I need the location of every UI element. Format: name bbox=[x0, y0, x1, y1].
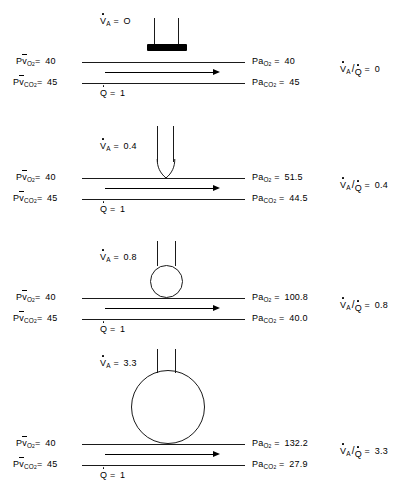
mixed-venous-pco2-value-4: 45 bbox=[47, 459, 57, 469]
v-subscript-a: A bbox=[106, 20, 110, 27]
q-dot-symbol: Q bbox=[100, 88, 107, 99]
airway-left-wall bbox=[157, 349, 158, 373]
mixed-venous-po2-value-1: 40 bbox=[45, 56, 55, 66]
equals-sign: = bbox=[110, 88, 115, 98]
panel-2: VA = 0.4 PvO2= 40 PvCO2= 45 Q = 1 PaO2 =… bbox=[0, 115, 413, 225]
v-subscript-a: A bbox=[346, 450, 350, 457]
capillary-bottom-wall bbox=[82, 83, 245, 84]
airway-left-wall bbox=[157, 241, 158, 266]
arterial-pco2-value-3: 40.0 bbox=[289, 313, 307, 323]
panel-1: VA = O PvO2= 40 PvCO2= 45 Q = 1 PaO2 = 4… bbox=[0, 0, 413, 110]
arterial-po2-value-1: 40 bbox=[284, 56, 294, 66]
alveolar-ventilation-value-3: 0.8 bbox=[124, 252, 137, 262]
capillary-top-wall bbox=[82, 298, 245, 299]
airway-obstruction-plug bbox=[147, 44, 187, 51]
equals-sign: = bbox=[113, 252, 118, 262]
arterial-pco2-value-1: 45 bbox=[289, 77, 299, 87]
equals-sign: = bbox=[365, 180, 370, 190]
co2-subscript: CO2 bbox=[263, 81, 276, 88]
equals-sign: = bbox=[113, 358, 118, 368]
airway-right-wall bbox=[175, 241, 176, 266]
mixed-venous-pco2-value-3: 45 bbox=[47, 313, 57, 323]
mixed-venous-po2-value-4: 40 bbox=[45, 438, 55, 448]
va-q-ratio-label-3: VA/Q = 0.8 bbox=[340, 299, 388, 311]
arterial-po2-label-2: PaO2 = 51.5 bbox=[252, 172, 303, 184]
equals-sign: = bbox=[113, 16, 118, 26]
airway-right-wall bbox=[178, 18, 179, 44]
v-subscript-a: A bbox=[346, 184, 350, 191]
arterial-pco2-label-2: PaCO2 = 44.5 bbox=[252, 193, 308, 205]
mixed-venous-pco2-label-4: PvCO2= 45 bbox=[13, 459, 57, 471]
arterial-po2-label-3: PaO2 = 100.8 bbox=[252, 292, 308, 304]
blood-flow-arrow-shaft bbox=[105, 188, 215, 189]
co2-subscript: CO2 bbox=[263, 463, 276, 470]
blood-flow-arrow-head bbox=[213, 185, 220, 191]
blood-flow-value-2: 1 bbox=[120, 204, 125, 214]
blood-flow-arrow-head bbox=[213, 451, 220, 457]
va-q-ratio-symbol: VA/Q bbox=[340, 179, 362, 191]
capillary-bottom-wall bbox=[82, 319, 245, 320]
alveolar-ventilation-value-1: O bbox=[124, 16, 131, 26]
co2-subscript: CO2 bbox=[24, 197, 37, 204]
alveolar-ventilation-label-2: VA = 0.4 bbox=[100, 141, 137, 152]
blood-flow-arrow-shaft bbox=[105, 454, 215, 455]
pa-symbol: Pa bbox=[252, 459, 263, 469]
alveolar-ventilation-label-3: VA = 0.8 bbox=[100, 252, 137, 263]
blood-flow-value-4: 1 bbox=[120, 470, 125, 480]
pa-symbol: Pa bbox=[252, 292, 263, 302]
q-dot-symbol: Q bbox=[355, 67, 362, 78]
mixed-venous-pco2-value-1: 45 bbox=[47, 77, 57, 87]
blood-flow-label-3: Q = 1 bbox=[100, 324, 125, 335]
equals-sign: = bbox=[279, 459, 284, 469]
panel-4: VA = 3.3 PvO2= 40 PvCO2= 45 Q = 1 PaO2 =… bbox=[0, 345, 413, 478]
equals-sign: = bbox=[37, 77, 42, 87]
blood-flow-arrow-head bbox=[213, 305, 220, 311]
capillary-bottom-wall bbox=[82, 465, 245, 466]
arterial-po2-value-2: 51.5 bbox=[284, 172, 302, 182]
equals-sign: = bbox=[37, 193, 42, 203]
equals-sign: = bbox=[274, 172, 279, 182]
o2-subscript: O2 bbox=[27, 442, 35, 449]
pa-symbol: Pa bbox=[252, 172, 263, 182]
va-q-ratio-value-3: 0.8 bbox=[375, 300, 388, 310]
equals-sign: = bbox=[110, 324, 115, 334]
v-subscript-a: A bbox=[346, 304, 350, 311]
equals-sign: = bbox=[35, 438, 40, 448]
equals-sign: = bbox=[37, 313, 42, 323]
o2-subscript: O2 bbox=[27, 176, 35, 183]
equals-sign: = bbox=[37, 459, 42, 469]
arterial-pco2-label-1: PaCO2 = 45 bbox=[252, 77, 300, 89]
o2-subscript: O2 bbox=[263, 296, 271, 303]
mixed-venous-po2-value-3: 40 bbox=[45, 292, 55, 302]
pa-symbol: Pa bbox=[252, 193, 263, 203]
va-q-ratio-value-1: 0 bbox=[375, 64, 380, 74]
q-dot-symbol: Q bbox=[355, 183, 362, 194]
capillary-top-wall bbox=[82, 444, 245, 445]
blood-flow-label-4: Q = 1 bbox=[100, 470, 125, 481]
co2-subscript: CO2 bbox=[263, 317, 276, 324]
va-q-ratio-symbol: VA/Q bbox=[340, 445, 362, 457]
q-dot-symbol: Q bbox=[355, 449, 362, 460]
equals-sign: = bbox=[274, 56, 279, 66]
capillary-top-wall bbox=[82, 178, 245, 179]
capillary-top-wall bbox=[82, 62, 245, 63]
airway-left-wall bbox=[154, 18, 155, 44]
equals-sign: = bbox=[365, 64, 370, 74]
co2-subscript: CO2 bbox=[24, 81, 37, 88]
va-q-ratio-label-1: VA/Q = 0 bbox=[340, 63, 380, 75]
va-q-ratio-symbol: VA/Q bbox=[340, 299, 362, 311]
equals-sign: = bbox=[110, 204, 115, 214]
va-q-ratio-label-2: VA/Q = 0.4 bbox=[340, 179, 388, 191]
alveolar-ventilation-label-4: VA = 3.3 bbox=[100, 358, 137, 369]
va-q-ratio-symbol: VA/Q bbox=[340, 63, 362, 75]
blood-flow-arrow-shaft bbox=[105, 72, 215, 73]
arterial-po2-value-4: 132.2 bbox=[284, 438, 308, 448]
airway-left-wall bbox=[157, 126, 158, 162]
mixed-venous-po2-label-3: PvO2= 40 bbox=[16, 292, 56, 304]
q-dot-symbol: Q bbox=[100, 324, 107, 335]
co2-subscript: CO2 bbox=[24, 463, 37, 470]
pa-symbol: Pa bbox=[252, 438, 263, 448]
arterial-po2-label-1: PaO2 = 40 bbox=[252, 56, 295, 68]
q-dot-symbol: Q bbox=[355, 303, 362, 314]
